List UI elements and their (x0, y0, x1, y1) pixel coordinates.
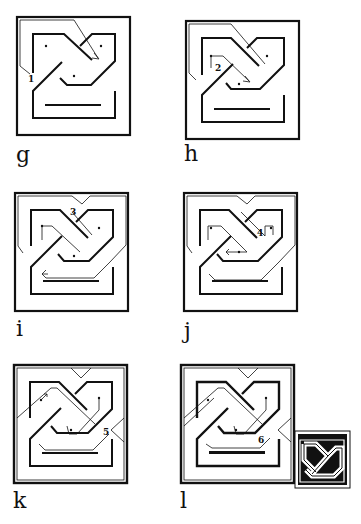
finished-knot (294, 430, 352, 490)
panel-i: 3 (12, 190, 132, 314)
step-number-3: 3 (70, 207, 76, 217)
step-number-1: 1 (28, 74, 34, 84)
knot-diagram-g: 1 (14, 14, 134, 138)
panel-label-l: l (180, 490, 187, 512)
knot-diagram-i: 3 (12, 190, 132, 314)
knot-diagram-h: 2 (183, 18, 303, 142)
knot-diagram-l: 6 (178, 362, 298, 486)
step-number-2: 2 (215, 63, 221, 73)
panel-h: 2 (183, 18, 303, 142)
panel-label-g: g (16, 144, 30, 166)
panel-label-h: h (184, 143, 198, 165)
panel-g: 1 (14, 14, 134, 138)
panel-j: 4 (181, 190, 301, 314)
knot-diagram-k: 5 (11, 362, 131, 486)
knot-diagram-j: 4 (181, 190, 301, 314)
step-number-5: 5 (103, 427, 109, 437)
finished-knot-diagram (294, 430, 352, 490)
step-number-4: 4 (257, 228, 263, 238)
panel-label-j: j (184, 320, 191, 342)
panel-label-k: k (13, 490, 26, 512)
panel-label-i: i (16, 318, 23, 340)
step-number-6: 6 (258, 435, 264, 445)
panel-l: 6 (178, 362, 298, 486)
panel-k: 5 (11, 362, 131, 486)
